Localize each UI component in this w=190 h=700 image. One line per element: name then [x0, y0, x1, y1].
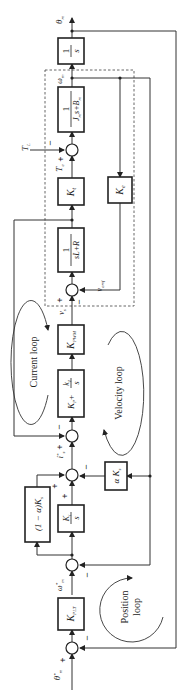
svg-text:+: +	[55, 444, 65, 449]
sum-node-torque	[66, 144, 78, 156]
velocity-feedback	[72, 78, 150, 565]
svg-text:−: −	[54, 424, 64, 429]
sum-node-velocity	[66, 559, 78, 571]
position-loop-label-2: loop	[131, 598, 142, 616]
current-pi-i-den: s	[72, 381, 81, 384]
svg-text:+: +	[58, 657, 68, 662]
control-block-diagram: 1 s 1 Jms+Bm Kt Ke 1 sL+R KPWM KP+ kI s …	[0, 0, 190, 700]
signal-theta-m: θm	[54, 16, 65, 24]
svg-text:+: +	[55, 297, 65, 302]
signal-theta-ref: θ*m	[52, 669, 63, 680]
svg-text:−: −	[81, 464, 91, 469]
velocity-loop-label: Velocity loop	[113, 366, 124, 420]
svg-text:−: −	[82, 635, 92, 640]
signal-load-torque: TL	[20, 143, 31, 151]
signal-back-emf: vemf	[95, 280, 105, 291]
position-feedback	[72, 31, 176, 648]
position-loop-label-1: Position	[119, 591, 130, 624]
signal-elec-torque: Te	[54, 164, 65, 172]
sum-node-voltage	[66, 284, 78, 296]
sum-node-velocity-ref	[66, 469, 78, 481]
signal-omega-ref: ω*m	[55, 579, 65, 591]
vel-integral-den: s	[72, 516, 81, 519]
block-pos-gain	[58, 598, 84, 630]
sum-node-position	[66, 642, 78, 654]
position-loop-annotation: Position loop	[100, 578, 163, 642]
elec-plant-den: sL+R	[72, 241, 81, 259]
svg-text:+: +	[56, 156, 66, 161]
sum-node-current	[66, 430, 78, 442]
signal-current-ref: i*s	[55, 451, 66, 458]
current-loop-label: Current loop	[28, 337, 39, 388]
integrator-den: s	[71, 49, 81, 53]
svg-text:−: −	[45, 140, 55, 145]
svg-text:−: −	[82, 572, 92, 577]
svg-text:−: −	[74, 299, 84, 304]
mech-plant-num: 1	[61, 107, 71, 112]
svg-text:+: +	[60, 493, 70, 498]
integrator-num: 1	[61, 49, 71, 54]
vel-feedback-label: α Ks	[111, 468, 122, 483]
svg-text:+: +	[50, 483, 60, 488]
elec-plant-num: 1	[61, 248, 71, 253]
current-loop-annotation: Current loop	[11, 301, 48, 425]
signal-voltage: vs	[57, 309, 67, 315]
feedforward-path	[37, 542, 72, 555]
velocity-loop-annotation: Velocity loop	[104, 331, 144, 455]
signal-omega-m: ωm	[55, 74, 65, 84]
vel-feedforward-label: (1 − α)Ks	[33, 497, 44, 531]
